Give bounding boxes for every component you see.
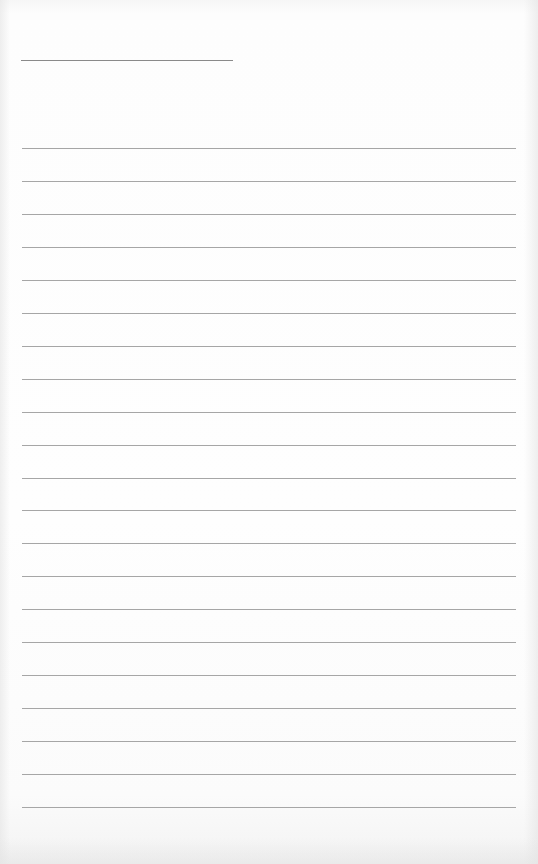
ruled-line: [22, 774, 516, 775]
ruled-line: [22, 148, 516, 149]
scan-shadow-right: [524, 0, 538, 864]
ruled-line: [22, 247, 516, 248]
ruled-line: [22, 346, 516, 347]
scan-shadow-left: [0, 0, 10, 864]
ruled-line: [22, 313, 516, 314]
ruled-line: [22, 510, 516, 511]
lined-paper-sheet: [0, 0, 538, 864]
ruled-line: [22, 379, 516, 380]
scan-shadow-bottom: [0, 838, 538, 864]
ruled-line: [22, 675, 516, 676]
ruled-line: [22, 543, 516, 544]
ruled-line: [22, 609, 516, 610]
ruled-line: [22, 412, 516, 413]
ruled-line: [22, 280, 516, 281]
ruled-line: [22, 576, 516, 577]
ruled-line: [22, 708, 516, 709]
ruled-line: [22, 214, 516, 215]
ruled-line: [22, 181, 516, 182]
ruled-line: [22, 807, 516, 808]
ruled-line: [22, 478, 516, 479]
ruled-line: [22, 445, 516, 446]
header-name-line: [21, 60, 233, 61]
ruled-line: [22, 741, 516, 742]
ruled-line: [22, 642, 516, 643]
